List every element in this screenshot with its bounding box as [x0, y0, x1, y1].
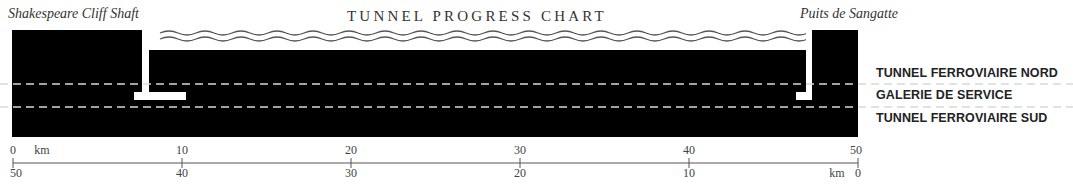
- bottom-tick-20: 20: [514, 166, 526, 181]
- bottom-tick-10: 10: [683, 166, 695, 181]
- left-shaft-label: Shakespeare Cliff Shaft: [8, 6, 139, 22]
- top-unit-label: km: [34, 143, 49, 158]
- chart-title: TUNNEL PROGRESS CHART: [347, 8, 607, 25]
- sea-area: [148, 30, 806, 50]
- top-tick-10: 10: [176, 143, 188, 158]
- left-shaft-gallery: [134, 92, 186, 100]
- top-tick-0: 0: [10, 143, 16, 158]
- bottom-tick-30: 30: [345, 166, 357, 181]
- layer-label-sud: TUNNEL FERROVIAIRE SUD: [876, 111, 1047, 125]
- bottom-tick-0: 0: [855, 166, 861, 181]
- bottom-tick-50: 50: [10, 166, 22, 181]
- bottom-tick-40: 40: [176, 166, 188, 181]
- left-shaft: [142, 30, 149, 98]
- right-shaft-gallery: [796, 92, 812, 100]
- top-tick-40: 40: [683, 143, 695, 158]
- top-tick-50: 50: [850, 143, 862, 158]
- layer-label-service: GALERIE DE SERVICE: [876, 88, 1012, 102]
- layer-label-nord: TUNNEL FERROVIAIRE NORD: [876, 66, 1058, 80]
- top-tick-20: 20: [345, 143, 357, 158]
- right-shaft: [806, 30, 812, 100]
- top-tick-30: 30: [514, 143, 526, 158]
- right-shaft-label: Puits de Sangatte: [800, 6, 898, 22]
- bottom-unit-label: km: [829, 166, 844, 181]
